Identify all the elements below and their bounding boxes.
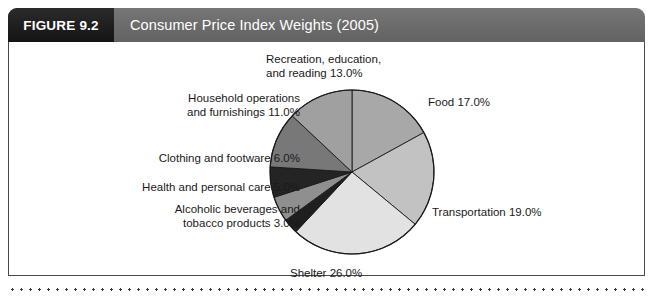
pie-label-health-personal-care: Health and personal care 5.0%: [96, 181, 300, 195]
figure-header-bar: FIGURE 9.2 Consumer Price Index Weights …: [8, 8, 645, 42]
figure-number-box: FIGURE 9.2: [8, 8, 114, 42]
pie-label-clothing-footware: Clothing and footware 6.0%: [88, 152, 300, 166]
pie-label-household-operations: Household operations and furnishings 11.…: [130, 92, 300, 119]
figure-bottom-dotted-rule: [8, 288, 645, 291]
figure-title: Consumer Price Index Weights (2005): [130, 8, 379, 42]
pie-label-transportation: Transportation 19.0%: [432, 206, 542, 220]
figure-container: FIGURE 9.2 Consumer Price Index Weights …: [0, 0, 653, 298]
figure-number-label: FIGURE 9.2: [23, 18, 99, 33]
pie-label-recreation: Recreation, education, and reading 13.0%: [266, 53, 381, 80]
pie-label-food: Food 17.0%: [428, 96, 490, 110]
pie-label-shelter: Shelter 26.0%: [290, 267, 362, 281]
pie-label-alcoholic-beverages: Alcoholic beverages and tobacco products…: [124, 203, 300, 230]
